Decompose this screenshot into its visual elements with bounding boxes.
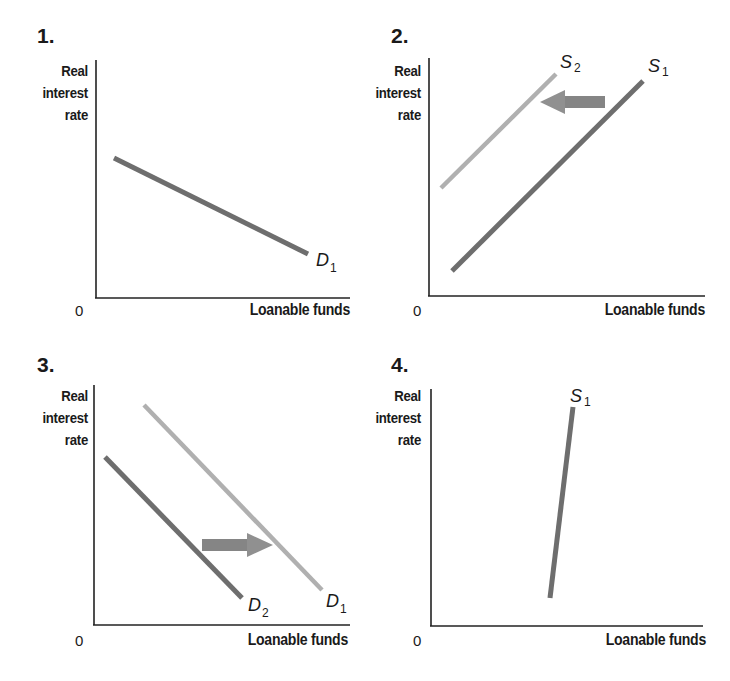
curve-label-s2: S 2: [560, 52, 581, 75]
left-arrow-icon: [540, 90, 605, 114]
panel-3-axes: [93, 385, 350, 625]
svg-text:1: 1: [340, 602, 347, 616]
demand-curve-d2: [105, 457, 242, 598]
charts-canvas: D 1 S 2 S 1 D 2 D 1 S: [0, 0, 730, 681]
supply-curve-s2: [441, 74, 556, 188]
svg-text:S: S: [648, 56, 660, 76]
panel-4-axes: [430, 389, 703, 626]
right-arrow-icon: [202, 533, 273, 557]
panel-2-axes: [428, 58, 705, 296]
demand-curve-d1: [114, 158, 308, 254]
supply-curve-s1: [550, 407, 573, 598]
curve-label-s1: S 1: [648, 56, 669, 79]
svg-text:1: 1: [662, 65, 669, 79]
curve-label-d2: D 2: [248, 595, 269, 620]
svg-text:2: 2: [262, 606, 269, 620]
svg-text:1: 1: [584, 395, 591, 409]
svg-text:D: D: [316, 250, 329, 270]
svg-text:1: 1: [330, 261, 337, 275]
svg-text:S: S: [560, 52, 572, 72]
panel-1-axes: [95, 60, 350, 298]
svg-text:D: D: [326, 591, 339, 611]
svg-text:D: D: [248, 595, 261, 615]
curve-label-d1: D 1: [316, 250, 337, 275]
svg-text:2: 2: [574, 61, 581, 75]
demand-curve-d1: [144, 405, 322, 590]
curve-label-d1: D 1: [326, 591, 347, 616]
supply-curve-s1: [452, 81, 643, 271]
svg-text:S: S: [570, 386, 582, 406]
curve-label-s1: S 1: [570, 386, 591, 409]
